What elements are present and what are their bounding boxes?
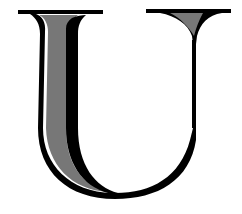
- serif-letter-u-icon: [0, 0, 242, 214]
- right-stem: [192, 40, 196, 128]
- left-serif-bar: [18, 10, 103, 14]
- letter-illustration: U: [0, 0, 242, 214]
- right-serif-bar: [146, 9, 231, 13]
